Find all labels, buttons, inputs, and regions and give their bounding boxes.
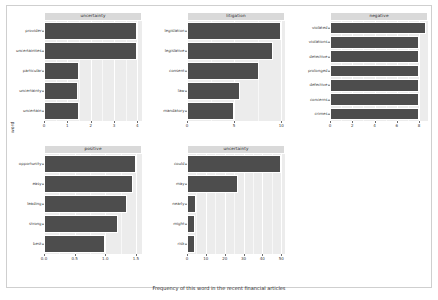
- bar: [187, 102, 234, 120]
- bar: [330, 79, 419, 92]
- y-tick-label: nearly: [172, 202, 184, 206]
- y-tick-label: legislative: [165, 49, 185, 53]
- x-tick-label: 10: [279, 124, 284, 128]
- bar: [187, 82, 240, 100]
- x-tick-label: 0: [43, 124, 46, 128]
- y-tick-label: risk: [178, 242, 185, 246]
- x-tick-label: 2: [89, 124, 92, 128]
- y-tick-label: may: [176, 182, 184, 186]
- figure-canvas: uncertaintyprovideruncertaintiesparticul…: [0, 0, 438, 300]
- bar: [44, 62, 79, 80]
- facet-panel-2: negativeviolatedviolationsdetectiveprolo…: [296, 12, 428, 131]
- y-tick-column-1: legislationlegislativeconsentlawmandator…: [153, 21, 187, 121]
- gridline: [281, 154, 282, 254]
- y-tick-label: uncertain: [23, 109, 42, 113]
- x-tick-label: 1.0: [102, 257, 108, 261]
- gridline: [419, 21, 420, 121]
- y-tick-label: crimes: [314, 112, 327, 116]
- plot-area-1: [187, 21, 285, 121]
- y-tick-label: defective: [309, 83, 327, 87]
- panel-body-4: couldmaynearlymightrisk: [153, 154, 285, 254]
- plot-area-0: [44, 21, 142, 121]
- facet-panel-0: uncertaintyprovideruncertaintiesparticul…: [10, 12, 142, 131]
- panel-body-3: opportunityeasyleadingstrongbest: [10, 154, 142, 254]
- x-tick-label: 0.0: [41, 257, 47, 261]
- x-tick-label: 3: [113, 124, 116, 128]
- y-tick-label: violations: [309, 40, 328, 44]
- bar: [44, 42, 137, 60]
- strip-text: positive: [84, 147, 101, 151]
- bar: [44, 155, 136, 173]
- x-tick-label: 8: [418, 124, 421, 128]
- facet-panel-3: positiveopportunityeasyleadingstrongbest…: [10, 145, 142, 264]
- x-tick-label: 5: [233, 124, 236, 128]
- panel-body-2: violatedviolationsdetectiveprolongeddefe…: [296, 21, 428, 121]
- strip-text: uncertainty: [80, 14, 105, 18]
- y-tick-label: leading: [27, 202, 41, 206]
- y-tick-label: easy: [32, 182, 41, 186]
- x-tick-label: 0: [186, 257, 189, 261]
- bar: [330, 93, 419, 106]
- strip-text: uncertainty: [223, 147, 248, 151]
- gridline: [136, 154, 137, 254]
- y-tick-label: best: [33, 242, 41, 246]
- y-tick-label: concerns: [310, 98, 328, 102]
- y-tick-label: violated: [312, 26, 328, 30]
- x-tick-label: 20: [222, 257, 227, 261]
- y-tick-label: provider: [25, 29, 41, 33]
- x-tick-label: 4: [136, 124, 139, 128]
- facet-strip-label-3: positive: [44, 145, 142, 154]
- strip-text: negative: [369, 14, 388, 18]
- facet-panel-4: uncertaintycouldmaynearlymightrisk010203…: [153, 145, 285, 264]
- facet-strip-label-4: uncertainty: [187, 145, 285, 154]
- panel-body-0: provideruncertaintiesparticularuncertain…: [10, 21, 142, 121]
- x-axis-2: 02468: [330, 121, 428, 131]
- bar: [330, 50, 419, 63]
- y-tick-column-2: violatedviolationsdetectiveprolongeddefe…: [296, 21, 330, 121]
- y-tick-label: legislation: [165, 29, 185, 33]
- bar: [330, 108, 419, 121]
- strip-text: litigation: [226, 14, 245, 18]
- x-tick-label: 40: [260, 257, 265, 261]
- bar: [187, 62, 259, 80]
- x-tick-label: 1: [66, 124, 69, 128]
- y-tick-label: could: [174, 162, 185, 166]
- bar: [187, 235, 195, 253]
- bar: [187, 22, 281, 40]
- bar: [44, 215, 118, 233]
- bar: [187, 175, 238, 193]
- y-tick-label: law: [178, 89, 185, 93]
- y-tick-label: uncertainty: [19, 89, 41, 93]
- bar: [187, 215, 195, 233]
- y-tick-column-4: couldmaynearlymightrisk: [153, 154, 187, 254]
- bar: [187, 42, 273, 60]
- panel-body-1: legislationlegislativeconsentlawmandator…: [153, 21, 285, 121]
- y-axis-title: word: [11, 122, 16, 133]
- bar: [187, 195, 196, 213]
- bar: [330, 22, 426, 35]
- y-tick-label: strong: [29, 222, 41, 226]
- x-tick-label: 30: [241, 257, 246, 261]
- bar: [330, 65, 419, 78]
- bar: [44, 235, 105, 253]
- gridline: [281, 21, 282, 121]
- x-tick-label: 2: [351, 124, 354, 128]
- facet-strip-label-1: litigation: [187, 12, 285, 21]
- x-tick-label: 10: [203, 257, 208, 261]
- bar: [44, 102, 79, 120]
- y-tick-label: particular: [23, 69, 42, 73]
- plot-area-4: [187, 154, 285, 254]
- x-axis-title: Frequency of this word in the recent fin…: [0, 286, 438, 291]
- y-tick-label: opportunity: [19, 162, 42, 166]
- x-axis-1: 0510: [187, 121, 285, 131]
- facet-strip-label-0: uncertainty: [44, 12, 142, 21]
- y-tick-label: might: [173, 222, 184, 226]
- x-axis-4: 01020304050: [187, 254, 285, 264]
- y-tick-column-0: provideruncertaintiesparticularuncertain…: [10, 21, 44, 121]
- facet-grid: uncertaintyprovideruncertaintiesparticul…: [10, 12, 428, 274]
- facet-panel-1: litigationlegislationlegislativeconsentl…: [153, 12, 285, 131]
- plot-area-3: [44, 154, 142, 254]
- y-tick-label: consent: [169, 69, 184, 73]
- x-tick-label: 0: [186, 124, 189, 128]
- gridline: [137, 21, 138, 121]
